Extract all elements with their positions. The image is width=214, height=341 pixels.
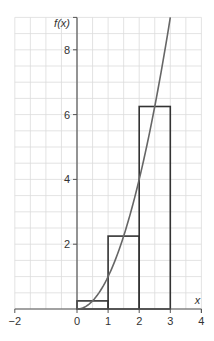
y-axis-label: f(x) [54, 17, 70, 29]
y-tick-label: 2 [64, 238, 70, 250]
x-tick-label: 0 [74, 315, 80, 327]
x-tick-label: 2 [136, 315, 142, 327]
x-tick-label: −2 [9, 315, 22, 327]
x-tick-label: 1 [105, 315, 111, 327]
y-tick-label: 6 [64, 109, 70, 121]
x-tick-label: 4 [198, 315, 204, 327]
y-tick-label: 4 [64, 173, 70, 185]
x-axis-label: x [194, 294, 201, 306]
x-tick-label: 3 [167, 315, 173, 327]
riemann-sum-chart: −2012342468xf(x) [0, 0, 214, 341]
y-tick-label: 8 [64, 44, 70, 56]
